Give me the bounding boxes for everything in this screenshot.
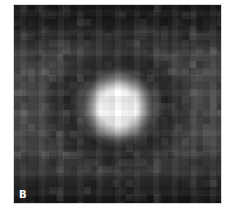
image-panel: B (14, 5, 221, 203)
figure: B (0, 0, 232, 218)
texture-overlay (14, 5, 221, 203)
panel-label: B (19, 190, 27, 200)
